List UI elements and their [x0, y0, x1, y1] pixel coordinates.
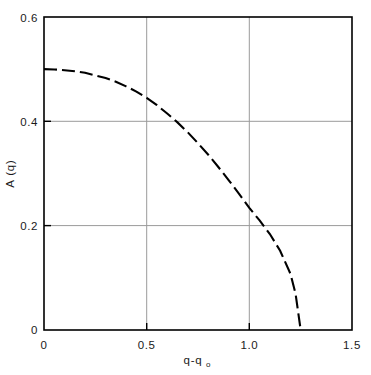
ytick-label-0.6: 0.6: [20, 12, 38, 24]
xtick-label-1.0: 1.0: [240, 339, 258, 351]
x-axis-title-subscript: o: [206, 360, 211, 369]
chart-figure: 0.6 0.4 0.2 0 0 0.5 1.0 1.5 q-q o A (q): [0, 0, 371, 375]
y-axis-title: A (q): [4, 159, 16, 187]
ytick-label-0: 0: [31, 324, 38, 336]
xtick-label-0: 0: [41, 339, 48, 351]
ytick-label-0.2: 0.2: [20, 220, 38, 232]
x-axis-title-text: q-q: [183, 354, 202, 366]
chart-background: [0, 0, 371, 375]
ytick-label-0.4: 0.4: [20, 116, 38, 128]
chart-svg: 0.6 0.4 0.2 0 0 0.5 1.0 1.5 q-q o A (q): [0, 0, 371, 375]
xtick-label-1.5: 1.5: [343, 339, 361, 351]
xtick-label-0.5: 0.5: [138, 339, 156, 351]
